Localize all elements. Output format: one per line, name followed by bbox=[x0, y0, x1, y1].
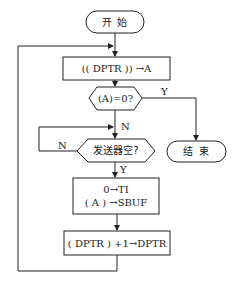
send-process: 0→TI ( A ) →SBUF bbox=[73, 178, 159, 214]
check-zero-label: (A)=0? bbox=[98, 92, 133, 105]
inc-process: ( DPTR ) +1→DPTR bbox=[64, 231, 170, 255]
label-tx-yes: Y bbox=[120, 164, 127, 176]
check-tx-decision: 发送器空? bbox=[77, 139, 155, 162]
check-tx-label: 发送器空? bbox=[93, 144, 138, 157]
check-zero-decision: (A)=0? bbox=[89, 87, 142, 110]
load-process: (( DPTR )) →A bbox=[63, 57, 170, 80]
inc-label: ( DPTR ) +1→DPTR bbox=[68, 237, 166, 250]
label-tx-no: N bbox=[58, 140, 67, 152]
start-terminal: 开 始 bbox=[86, 11, 144, 33]
start-label: 开 始 bbox=[102, 16, 128, 29]
end-label: 结 束 bbox=[183, 145, 209, 158]
send-label-line1: 0→TI bbox=[103, 183, 128, 196]
edge-check-zero-yes bbox=[142, 98, 196, 140]
load-label: (( DPTR )) →A bbox=[82, 62, 152, 75]
end-terminal: 结 束 bbox=[167, 141, 226, 162]
label-zero-no: N bbox=[121, 121, 130, 133]
send-label-line2: ( A ) →SBUF bbox=[85, 196, 148, 209]
label-zero-yes: Y bbox=[161, 86, 168, 98]
